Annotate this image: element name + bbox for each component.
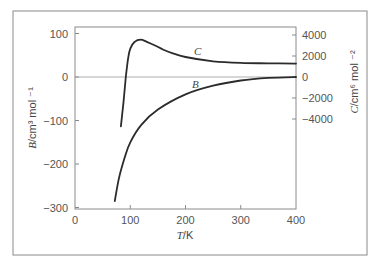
y-left-axis-label: B/cm³ mol ⁻¹ <box>26 87 38 149</box>
y-left-tick-label: 0 <box>62 71 68 83</box>
y-right-unit: /cm⁶ mol ⁻² <box>348 50 360 106</box>
x-axis-unit: /K <box>183 229 194 241</box>
x-tick-label: 0 <box>72 214 78 226</box>
y-right-axis-label: C/cm⁶ mol ⁻² <box>348 50 360 113</box>
y-left-tick-label: −300 <box>43 202 68 214</box>
y-right-tick-label: 2000 <box>302 50 326 62</box>
curve-b <box>115 77 296 201</box>
y-right-tick-label: −4000 <box>302 113 333 125</box>
virial-coefficient-chart: 01002003004001000−100−200−300400020000−2… <box>0 0 370 265</box>
curves <box>115 40 296 201</box>
y-right-tick-label: −2000 <box>302 92 333 104</box>
x-axis-label: T/K <box>177 229 194 241</box>
curve-c-label: C <box>194 45 202 57</box>
x-tick-label: 400 <box>287 214 305 226</box>
y-left-tick-label: −100 <box>43 115 68 127</box>
x-tick-label: 200 <box>176 214 194 226</box>
y-right-tick-label: 0 <box>302 71 308 83</box>
y-left-unit: /cm³ mol ⁻¹ <box>26 87 38 142</box>
x-tick-label: 100 <box>121 214 139 226</box>
y-right-tick-label: 4000 <box>302 29 326 41</box>
plot-frame <box>75 27 296 209</box>
x-tick-label: 300 <box>232 214 250 226</box>
curve-b-label: B <box>192 78 199 90</box>
y-left-tick-label: 100 <box>50 28 68 40</box>
curve-c <box>121 40 296 127</box>
y-left-tick-label: −200 <box>43 158 68 170</box>
